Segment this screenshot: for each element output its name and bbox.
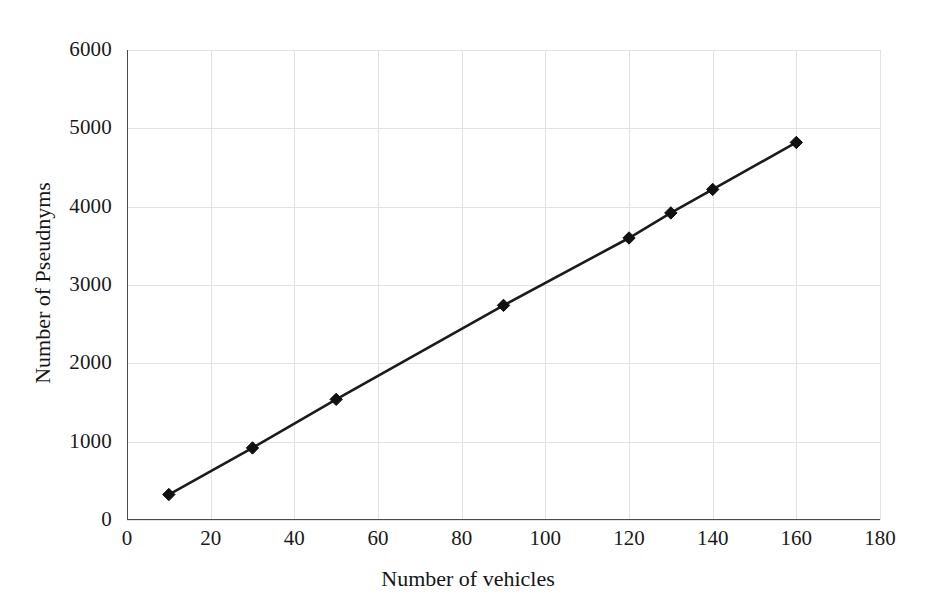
y-axis-tick-labels: 0100020003000400050006000	[0, 0, 112, 611]
x-axis-tick-label: 120	[613, 528, 645, 549]
y-axis-tick-label: 4000	[69, 196, 112, 217]
x-axis-tick-label: 160	[781, 528, 813, 549]
series-line-pseudonyms	[169, 142, 797, 494]
y-axis-tick-label: 3000	[69, 274, 112, 295]
data-series-pseudonyms	[127, 50, 880, 520]
plot-area	[127, 50, 880, 520]
chart-figure: 0100020003000400050006000 02040608010012…	[0, 0, 936, 611]
data-point-marker	[665, 207, 677, 219]
y-axis-tick-label: 0	[101, 509, 112, 530]
x-axis-tick-label: 140	[697, 528, 729, 549]
x-axis-tick-label: 40	[284, 528, 305, 549]
x-axis-tick-label: 80	[451, 528, 472, 549]
y-axis-tick-label: 1000	[69, 431, 112, 452]
x-axis-tick-labels: 020406080100120140160180	[0, 528, 936, 562]
x-axis-tick-label: 60	[368, 528, 389, 549]
y-axis-title: Number of Pseudnyms	[30, 133, 56, 433]
x-axis-tick-label: 100	[530, 528, 562, 549]
y-axis-tick-label: 6000	[69, 39, 112, 60]
x-axis-tick-label: 0	[122, 528, 133, 549]
x-axis-tick-label: 180	[864, 528, 896, 549]
x-axis-tick-label: 20	[200, 528, 221, 549]
data-point-marker	[497, 299, 509, 311]
data-point-marker	[246, 442, 258, 454]
data-point-marker	[330, 393, 342, 405]
y-axis-tick-label: 5000	[69, 117, 112, 138]
y-axis-tick-label: 2000	[69, 352, 112, 373]
data-point-marker	[623, 232, 635, 244]
data-point-marker	[706, 183, 718, 195]
x-axis-title: Number of vehicles	[0, 566, 936, 592]
data-point-marker	[163, 488, 175, 500]
data-point-marker	[790, 136, 802, 148]
